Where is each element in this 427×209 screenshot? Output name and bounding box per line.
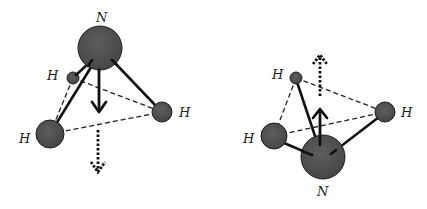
molecule-right: N H H H bbox=[242, 55, 413, 199]
hydrogen-atom-right bbox=[152, 102, 172, 122]
hydrogen-label-back: H bbox=[46, 68, 59, 83]
dipole-arrow-solid-down-icon bbox=[92, 70, 106, 112]
nitrogen-atom bbox=[301, 135, 345, 179]
bonds-left bbox=[56, 62, 156, 124]
dipole-arrow-dotted-up-icon bbox=[313, 55, 327, 96]
nitrogen-label: N bbox=[95, 10, 108, 25]
hydrogen-atom-right bbox=[375, 102, 395, 122]
hydrogen-label-back: H bbox=[271, 67, 284, 82]
dipole-arrow-dotted-down-icon bbox=[91, 130, 105, 172]
molecule-left: N H H H bbox=[18, 10, 191, 172]
hydrogen-atom-back bbox=[290, 72, 302, 84]
hydrogen-label-front-left: H bbox=[18, 131, 31, 146]
nitrogen-label: N bbox=[316, 184, 329, 199]
hydrogen-atom-front-left bbox=[36, 120, 64, 148]
hydrogen-label-front-left: H bbox=[242, 131, 255, 146]
hydrogen-label-right: H bbox=[178, 105, 191, 120]
ammonia-inversion-diagram: N H H H bbox=[0, 0, 427, 209]
hydrogen-label-right: H bbox=[400, 105, 413, 120]
hydrogen-atom-front-left bbox=[261, 123, 287, 149]
base-triangle-right bbox=[274, 78, 385, 136]
